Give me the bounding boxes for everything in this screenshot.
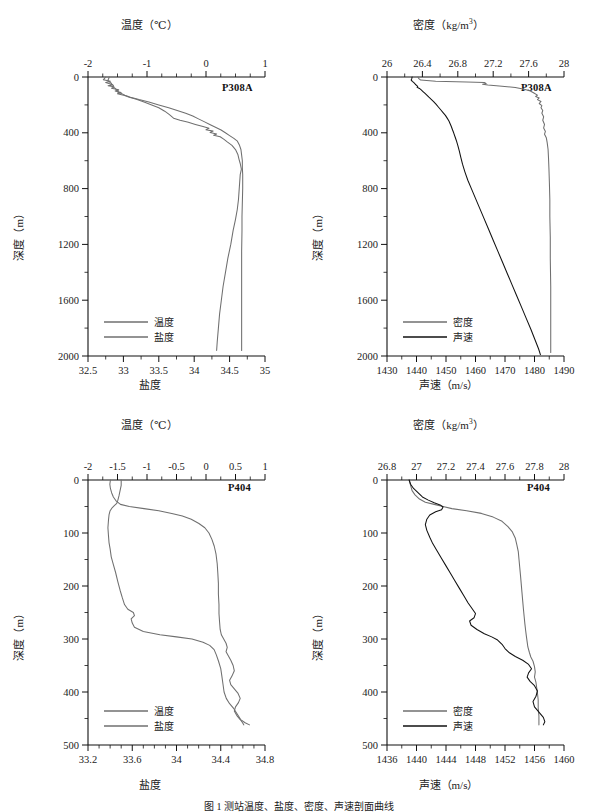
- figure-caption: 图 1 测站温度、盐度、密度、声速剖面曲线: [0, 800, 598, 812]
- svg-text:34: 34: [189, 365, 200, 376]
- svg-text:300: 300: [362, 634, 378, 645]
- svg-text:27.8: 27.8: [525, 461, 543, 472]
- series-curve-盐度: [108, 77, 243, 350]
- svg-text:33.6: 33.6: [123, 754, 141, 765]
- figure-root: 温度（℃） 深度（m） P308A 盐度 -2-10132.53333.5343…: [0, 0, 598, 812]
- svg-text:0: 0: [74, 72, 79, 83]
- svg-text:800: 800: [63, 183, 79, 194]
- series-curve-密度: [418, 77, 551, 353]
- svg-text:100: 100: [63, 528, 79, 539]
- series-curve-盐度: [108, 480, 250, 725]
- svg-text:800: 800: [362, 183, 378, 194]
- plot-area-p404-dens-ssp: 26.82727.227.427.627.8281436144014441448…: [299, 400, 598, 800]
- svg-text:1200: 1200: [58, 239, 79, 250]
- svg-text:27.6: 27.6: [496, 461, 514, 472]
- svg-text:1460: 1460: [465, 365, 486, 376]
- svg-text:200: 200: [63, 581, 79, 592]
- svg-text:28: 28: [559, 58, 570, 69]
- svg-text:-1: -1: [143, 58, 152, 69]
- svg-text:-1: -1: [143, 461, 152, 472]
- svg-text:26: 26: [382, 58, 393, 69]
- legend-label-声速: 声速: [453, 331, 473, 343]
- svg-text:34.5: 34.5: [220, 365, 238, 376]
- svg-text:28: 28: [559, 461, 570, 472]
- plot-area-p404-temp-sal: -2-1.5-1-0.500.5133.233.63434.434.801002…: [0, 400, 299, 800]
- svg-text:1440: 1440: [406, 365, 427, 376]
- series-curve-声速: [409, 480, 545, 725]
- svg-text:33.5: 33.5: [150, 365, 168, 376]
- svg-text:0.5: 0.5: [229, 461, 242, 472]
- svg-text:100: 100: [362, 528, 378, 539]
- legend-label-温度: 温度: [154, 316, 174, 328]
- panel-p404-density-soundspeed: 密度（kg/m3） 深度（m） P404 声速（m/s） 26.82727.22…: [299, 400, 598, 800]
- svg-text:400: 400: [63, 127, 79, 138]
- svg-text:0: 0: [74, 475, 79, 486]
- svg-text:1452: 1452: [495, 754, 516, 765]
- legend-label-密度: 密度: [453, 705, 473, 717]
- svg-text:27.2: 27.2: [484, 58, 502, 69]
- panel-p308a-temperature-salinity: 温度（℃） 深度（m） P308A 盐度 -2-10132.53333.5343…: [0, 0, 299, 400]
- series-curve-声速: [411, 77, 540, 355]
- legend-label-盐度: 盐度: [154, 331, 174, 343]
- legend-label-密度: 密度: [453, 316, 473, 328]
- svg-text:0: 0: [203, 461, 208, 472]
- svg-text:1450: 1450: [436, 365, 457, 376]
- svg-text:34.8: 34.8: [256, 754, 274, 765]
- svg-text:1600: 1600: [58, 295, 79, 306]
- series-curve-温度: [103, 77, 241, 350]
- svg-text:27.4: 27.4: [466, 461, 485, 472]
- svg-text:200: 200: [362, 581, 378, 592]
- plot-area-p308a-dens-ssp: 2626.426.827.227.62814301440145014601470…: [299, 0, 598, 400]
- svg-text:34.4: 34.4: [212, 754, 231, 765]
- svg-text:32.5: 32.5: [79, 365, 97, 376]
- svg-text:400: 400: [63, 687, 79, 698]
- svg-text:33.2: 33.2: [79, 754, 97, 765]
- svg-text:-1.5: -1.5: [109, 461, 126, 472]
- svg-text:1430: 1430: [377, 365, 398, 376]
- svg-text:1456: 1456: [524, 754, 545, 765]
- svg-text:400: 400: [362, 687, 378, 698]
- svg-text:-2: -2: [84, 461, 93, 472]
- svg-text:1460: 1460: [554, 754, 575, 765]
- svg-text:400: 400: [362, 127, 378, 138]
- svg-text:33: 33: [118, 365, 129, 376]
- svg-text:300: 300: [63, 634, 79, 645]
- svg-text:2000: 2000: [58, 351, 79, 362]
- svg-text:35: 35: [260, 365, 271, 376]
- svg-text:500: 500: [63, 740, 79, 751]
- svg-text:1480: 1480: [524, 365, 545, 376]
- svg-text:27.2: 27.2: [437, 461, 455, 472]
- svg-text:1: 1: [262, 58, 267, 69]
- svg-text:1436: 1436: [377, 754, 398, 765]
- svg-text:26.8: 26.8: [378, 461, 396, 472]
- svg-text:1440: 1440: [406, 754, 427, 765]
- svg-text:-0.5: -0.5: [168, 461, 185, 472]
- svg-text:27: 27: [411, 461, 422, 472]
- svg-text:27.6: 27.6: [519, 58, 537, 69]
- svg-text:1444: 1444: [436, 754, 458, 765]
- svg-text:1200: 1200: [357, 239, 378, 250]
- plot-area-p308a-temp-sal: -2-10132.53333.53434.5350400800120016002…: [0, 0, 299, 400]
- svg-text:1448: 1448: [465, 754, 486, 765]
- svg-text:26.4: 26.4: [413, 58, 432, 69]
- svg-text:1: 1: [262, 461, 267, 472]
- panel-p404-temperature-salinity: 温度（℃） 深度（m） P404 盐度 -2-1.5-1-0.500.5133.…: [0, 400, 299, 800]
- svg-text:2000: 2000: [357, 351, 378, 362]
- svg-text:1600: 1600: [357, 295, 378, 306]
- svg-text:26.8: 26.8: [449, 58, 467, 69]
- legend-label-盐度: 盐度: [154, 720, 174, 732]
- svg-text:0: 0: [203, 58, 208, 69]
- legend-label-声速: 声速: [453, 720, 473, 732]
- legend-label-温度: 温度: [154, 705, 174, 717]
- svg-text:34: 34: [171, 754, 182, 765]
- svg-text:1470: 1470: [495, 365, 516, 376]
- svg-text:0: 0: [373, 72, 378, 83]
- panel-p308a-density-soundspeed: 密度（kg/m3） 深度（m） P308A 声速（m/s） 2626.426.8…: [299, 0, 598, 400]
- svg-text:1490: 1490: [554, 365, 575, 376]
- svg-text:-2: -2: [84, 58, 93, 69]
- svg-text:500: 500: [362, 740, 378, 751]
- svg-text:0: 0: [373, 475, 378, 486]
